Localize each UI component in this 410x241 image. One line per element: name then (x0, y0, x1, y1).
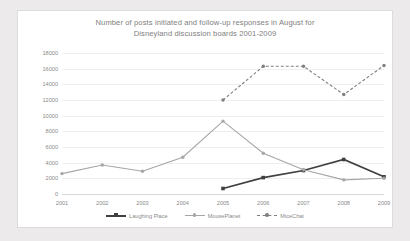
data-point-marker (382, 177, 385, 180)
data-point-marker (261, 176, 265, 180)
data-point-marker (101, 163, 104, 166)
series-line (62, 121, 384, 180)
chart-container: Number of posts initiated and follow-up … (17, 10, 393, 228)
data-point-marker (302, 65, 305, 68)
legend-item[interactable]: MiceChat (257, 212, 304, 219)
plot-area: 0200040006000800010000120001400016000180… (18, 11, 394, 229)
chart-legend: Laughing PlaceMousePlanetMiceChat (18, 212, 392, 219)
legend-swatch-icon (257, 212, 277, 219)
legend-swatch-icon (185, 212, 205, 219)
data-point-marker (262, 65, 265, 68)
data-point-marker (141, 170, 144, 173)
data-point-marker (302, 168, 305, 171)
data-point-marker (221, 187, 225, 191)
data-point-marker (382, 64, 385, 67)
data-point-marker (60, 172, 63, 175)
legend-swatch-icon (106, 212, 126, 219)
data-point-marker (342, 158, 346, 162)
series-line (223, 160, 384, 189)
data-point-marker (342, 93, 345, 96)
legend-item[interactable]: Laughing Place (106, 212, 168, 219)
data-point-marker (181, 156, 184, 159)
data-point-marker (262, 152, 265, 155)
series-line (223, 66, 384, 101)
legend-item[interactable]: MousePlanet (185, 212, 241, 219)
data-point-marker (342, 178, 345, 181)
series-lines (18, 11, 394, 229)
data-point-marker (221, 119, 224, 122)
legend-label: Laughing Place (129, 213, 168, 219)
data-point-marker (221, 98, 224, 101)
legend-label: MousePlanet (208, 213, 241, 219)
legend-label: MiceChat (280, 213, 304, 219)
